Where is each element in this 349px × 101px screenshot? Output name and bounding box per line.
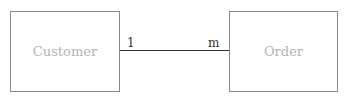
entity-customer-label: Customer (33, 44, 97, 59)
relationship-line (120, 50, 229, 51)
cardinality-customer-side: 1 (127, 37, 135, 49)
er-diagram-canvas: Customer 1 m Order (0, 0, 349, 101)
entity-order-label: Order (264, 44, 303, 59)
entity-order: Order (229, 11, 338, 92)
cardinality-order-side: m (208, 37, 219, 49)
entity-customer: Customer (10, 11, 120, 92)
